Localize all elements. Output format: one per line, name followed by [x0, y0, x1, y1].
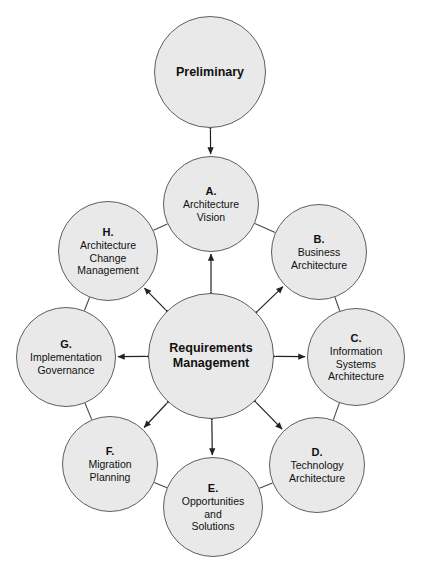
- node-phase-e[interactable]: E.OpportunitiesandSolutions: [163, 457, 263, 557]
- phase-e-line-3: Solutions: [191, 520, 234, 532]
- phase-f-line-1: Migration: [88, 458, 131, 470]
- phase-b-letter: B.: [314, 233, 325, 246]
- phase-f-line-2: Planning: [90, 471, 131, 483]
- node-requirements-management[interactable]: RequirementsManagement: [148, 293, 274, 419]
- preliminary-label: Preliminary: [176, 65, 244, 80]
- phase-g-line-2: Governance: [37, 364, 94, 376]
- phase-h-line-2: Change: [90, 252, 127, 264]
- phase-d-line-2: Architecture: [289, 472, 345, 484]
- node-phase-c[interactable]: C.InformationSystemsArchitecture: [307, 308, 405, 406]
- requirements-management-line-2: Management: [173, 356, 249, 371]
- node-phase-a[interactable]: A.ArchitectureVision: [163, 156, 259, 252]
- phase-h-line-1: Architecture: [80, 239, 136, 251]
- node-phase-d[interactable]: D.TechnologyArchitecture: [269, 417, 365, 513]
- phase-e-line-2: and: [204, 508, 222, 520]
- node-phase-g[interactable]: G.ImplementationGovernance: [16, 307, 116, 407]
- phase-h-line-3: Management: [77, 264, 138, 276]
- phase-f-letter: F.: [106, 445, 115, 458]
- phase-d-line-1: Technology: [290, 459, 343, 471]
- node-phase-f[interactable]: F.MigrationPlanning: [62, 416, 158, 512]
- phase-e-line-1: Opportunities: [182, 495, 244, 507]
- node-preliminary[interactable]: Preliminary: [154, 16, 266, 128]
- phase-c-line-1: Information: [330, 345, 383, 357]
- adm-diagram-canvas: PreliminaryRequirementsManagementA.Archi…: [0, 0, 421, 575]
- phase-d-letter: D.: [312, 446, 323, 459]
- phase-c-letter: C.: [351, 332, 362, 345]
- phase-b-line-1: Business: [298, 246, 341, 258]
- node-phase-b[interactable]: B.BusinessArchitecture: [271, 204, 367, 300]
- phase-b-line-2: Architecture: [291, 259, 347, 271]
- phase-g-line-1: Implementation: [30, 351, 102, 363]
- phase-h-letter: H.: [103, 226, 114, 239]
- phase-e-letter: E.: [208, 482, 218, 495]
- phase-a-letter: A.: [206, 185, 217, 198]
- phase-a-line-1: Architecture: [183, 198, 239, 210]
- phase-g-letter: G.: [60, 338, 72, 351]
- node-phase-h[interactable]: H.ArchitectureChangeManagement: [58, 201, 158, 301]
- phase-c-line-2: Systems: [336, 358, 376, 370]
- requirements-management-line-1: Requirements: [169, 341, 252, 356]
- phase-c-line-3: Architecture: [328, 370, 384, 382]
- phase-a-line-2: Vision: [197, 211, 225, 223]
